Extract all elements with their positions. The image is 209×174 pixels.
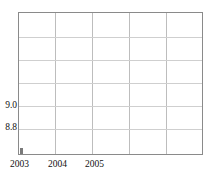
chart-title: Domestic Box Office: [0, 0, 209, 2]
y-axis: 9.0 8.8: [0, 0, 17, 174]
origin-tick-marker: [20, 148, 23, 154]
chart-screenshot: Domestic Box Office 9.0 8.8 2003 2004 20…: [0, 0, 209, 174]
data-series-layer: [19, 13, 204, 156]
gridline-horizontal: [19, 83, 202, 84]
plot-area[interactable]: [18, 12, 203, 155]
gridline-horizontal: [19, 129, 202, 130]
gridline-horizontal: [19, 106, 202, 107]
gridline-horizontal: [19, 60, 202, 61]
x-tick-label: 2004: [48, 159, 67, 170]
x-axis: 2003 2004 2005: [0, 159, 209, 173]
x-tick-label: 2005: [85, 159, 104, 170]
gridline-horizontal: [19, 37, 202, 38]
y-tick-label: 8.8: [0, 122, 17, 132]
x-tick-label: 2003: [10, 159, 29, 170]
y-tick-label: 9.0: [0, 100, 17, 110]
